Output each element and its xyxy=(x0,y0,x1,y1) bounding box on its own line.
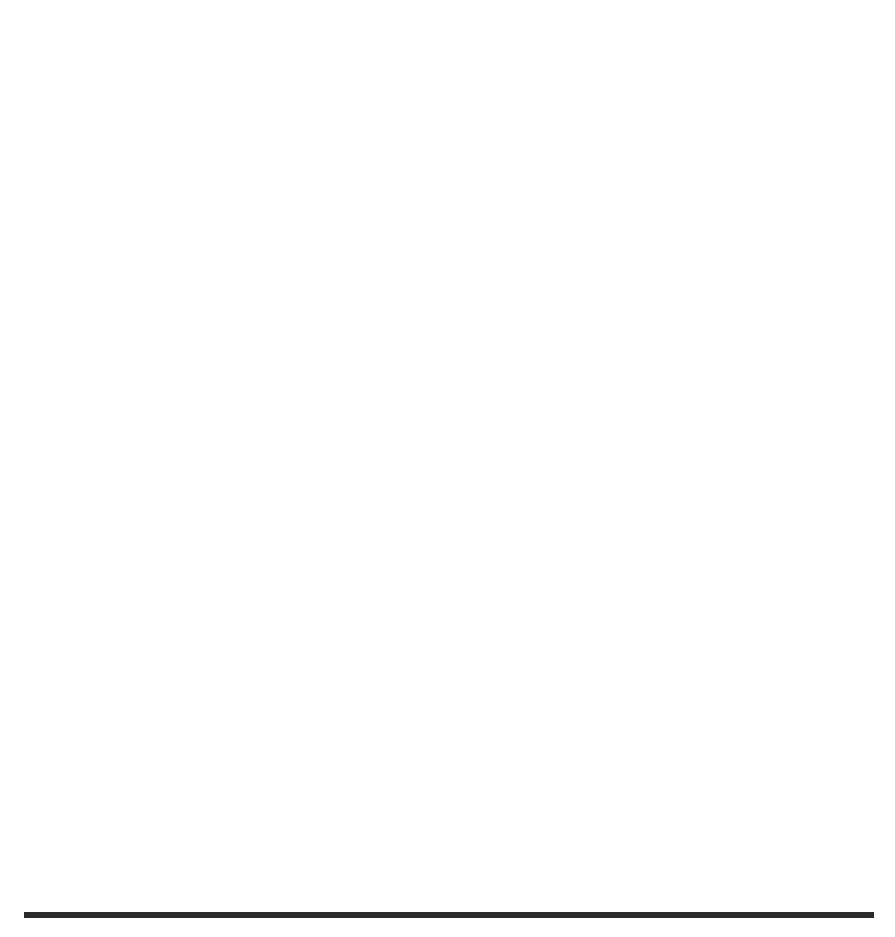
fitness-evaluations-chart xyxy=(0,478,895,908)
objective-throughput-chart xyxy=(0,0,895,460)
figure-panel-b xyxy=(0,0,895,937)
footer-rule xyxy=(24,912,874,918)
